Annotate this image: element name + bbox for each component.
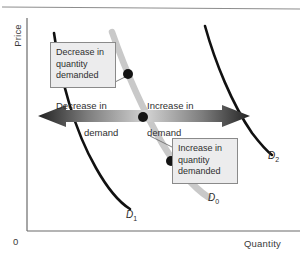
point-middle <box>138 112 148 122</box>
point-upper <box>123 69 133 79</box>
arrow-label-increase-line1: Increase in <box>147 100 193 111</box>
curve-label-d2-sub: 2 <box>275 156 279 163</box>
arrow-label-decrease-line1: Decrease in <box>56 100 107 111</box>
x-axis-label: Quantity <box>244 238 281 249</box>
callout-increase-line3: demanded <box>178 166 232 178</box>
curve-label-d0-sub: 0 <box>215 198 219 205</box>
arrow-label-increase-line2: demand <box>147 127 181 138</box>
callout-increase-line2: quantity <box>178 155 232 167</box>
callout-increase-quantity-demanded: Increase in quantity demanded <box>172 138 238 184</box>
top-rule <box>2 7 300 9</box>
y-axis-label: Price <box>12 11 23 61</box>
curve-label-d1-sub: 1 <box>133 215 137 222</box>
curve-label-d1: D1 <box>126 209 137 222</box>
curve-label-d0: D0 <box>208 192 219 205</box>
callout-decrease-quantity-demanded: Decrease in quantity demanded <box>50 42 116 88</box>
curve-d2 <box>205 26 272 155</box>
callout-decrease-line1: Decrease in <box>56 47 110 59</box>
origin-label: 0 <box>13 236 18 247</box>
callout-decrease-line3: demanded <box>56 70 110 82</box>
arrow-label-decrease-line2: demand <box>84 127 118 138</box>
callout-decrease-line2: quantity <box>56 59 110 71</box>
callout-increase-line1: Increase in <box>178 143 232 155</box>
curve-label-d2: D2 <box>268 150 279 163</box>
demand-curve-diagram: Price Quantity 0 Decrease in quantity de… <box>0 0 302 258</box>
